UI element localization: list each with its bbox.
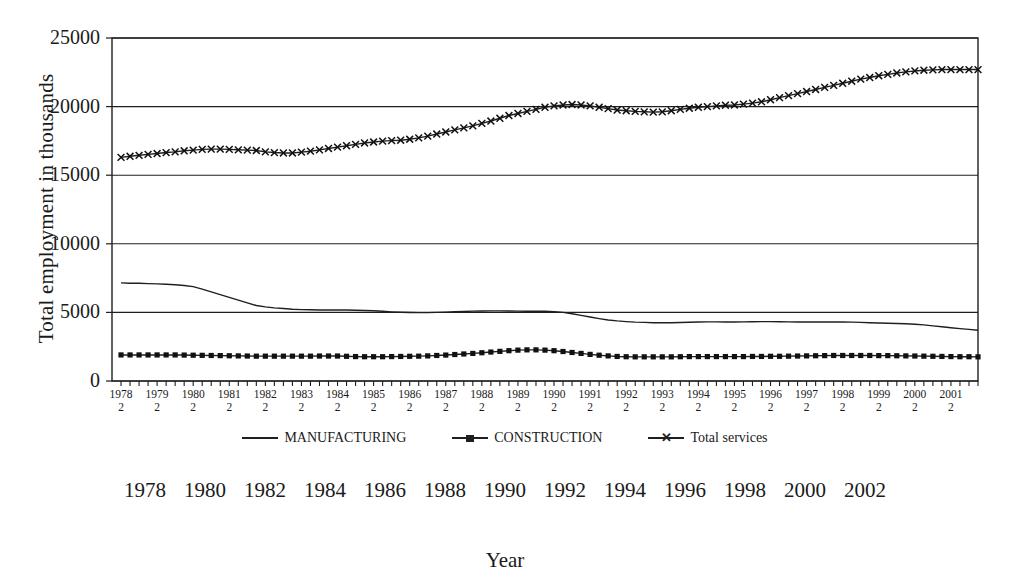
x-tick-quarter: 2: [318, 402, 358, 414]
secondary-year-axis: 1978198019821984198619881990199219941996…: [0, 478, 1010, 503]
x-tick-label: 19992: [859, 389, 899, 413]
secondary-year-label: 2002: [835, 478, 895, 503]
x-tick-quarter: 2: [823, 402, 863, 414]
legend-label-manufacturing: MANUFACTURING: [284, 430, 406, 446]
x-tick-label: 19932: [642, 389, 682, 413]
legend-label-construction: CONSTRUCTION: [494, 430, 602, 446]
x-tick-year: 1997: [787, 389, 827, 401]
secondary-year-label: 1988: [415, 478, 475, 503]
x-tick-year: 2001: [931, 389, 971, 401]
x-tick-year: 1978: [101, 389, 141, 401]
x-tick-quarter: 2: [354, 402, 394, 414]
x-tick-label: 19792: [137, 389, 177, 413]
x-tick-year: 1986: [390, 389, 430, 401]
x-tick-year: 1988: [462, 389, 502, 401]
x-tick-label: 19822: [245, 389, 285, 413]
y-tick-label: 5000: [20, 301, 100, 321]
x-tick-year: 1979: [137, 389, 177, 401]
y-tick-label: 20000: [20, 96, 100, 116]
x-tick-label: 20012: [931, 389, 971, 413]
legend-key-cross-icon: ✕: [648, 431, 684, 445]
x-tick-year: 1996: [751, 389, 791, 401]
x-tick-quarter: 2: [606, 402, 646, 414]
x-axis-title: Year: [0, 548, 1010, 573]
x-tick-label: 19902: [534, 389, 574, 413]
x-tick-quarter: 2: [714, 402, 754, 414]
x-tick-year: 1989: [498, 389, 538, 401]
x-tick-quarter: 2: [101, 402, 141, 414]
secondary-year-label: 1980: [175, 478, 235, 503]
x-tick-quarter: 2: [570, 402, 610, 414]
x-tick-year: 1991: [570, 389, 610, 401]
x-tick-quarter: 2: [534, 402, 574, 414]
secondary-year-label: 1994: [595, 478, 655, 503]
x-tick-label: 19842: [318, 389, 358, 413]
secondary-year-label: 1990: [475, 478, 535, 503]
employment-line-chart: Total employment in thousands MANUFACTUR…: [0, 0, 1010, 584]
x-tick-year: 1981: [209, 389, 249, 401]
x-tick-quarter: 2: [137, 402, 177, 414]
x-tick-label: 19882: [462, 389, 502, 413]
x-tick-label: 20002: [895, 389, 935, 413]
secondary-year-label: 1978: [115, 478, 175, 503]
legend-item-manufacturing[interactable]: MANUFACTURING: [242, 430, 406, 446]
x-tick-label: 19812: [209, 389, 249, 413]
x-tick-label: 19852: [354, 389, 394, 413]
x-tick-quarter: 2: [787, 402, 827, 414]
secondary-year-label: 1996: [655, 478, 715, 503]
x-tick-label: 19892: [498, 389, 538, 413]
y-tick-label: 25000: [20, 27, 100, 47]
x-tick-quarter: 2: [462, 402, 502, 414]
x-tick-year: 1980: [173, 389, 213, 401]
x-tick-year: 1987: [426, 389, 466, 401]
x-tick-year: 2000: [895, 389, 935, 401]
legend-key-square-icon: [452, 431, 488, 445]
x-tick-quarter: 2: [173, 402, 213, 414]
x-tick-label: 19922: [606, 389, 646, 413]
legend-label-total-services: Total services: [690, 430, 767, 446]
x-tick-quarter: 2: [390, 402, 430, 414]
x-tick-year: 1990: [534, 389, 574, 401]
x-tick-year: 1999: [859, 389, 899, 401]
x-tick-quarter: 2: [931, 402, 971, 414]
secondary-year-label: 1986: [355, 478, 415, 503]
x-tick-quarter: 2: [245, 402, 285, 414]
y-tick-label: 15000: [20, 164, 100, 184]
legend-item-total-services[interactable]: ✕ Total services: [648, 430, 767, 446]
legend-key-line-icon: [242, 431, 278, 445]
x-tick-quarter: 2: [281, 402, 321, 414]
x-tick-quarter: 2: [209, 402, 249, 414]
secondary-year-label: 2000: [775, 478, 835, 503]
x-tick-quarter: 2: [859, 402, 899, 414]
x-tick-label: 19972: [787, 389, 827, 413]
x-tick-label: 19982: [823, 389, 863, 413]
y-tick-label: 10000: [20, 233, 100, 253]
x-tick-label: 19862: [390, 389, 430, 413]
x-tick-label: 19832: [281, 389, 321, 413]
x-tick-label: 19872: [426, 389, 466, 413]
x-tick-year: 1985: [354, 389, 394, 401]
x-tick-quarter: 2: [678, 402, 718, 414]
x-tick-year: 1983: [281, 389, 321, 401]
x-tick-year: 1993: [642, 389, 682, 401]
x-tick-label: 19782: [101, 389, 141, 413]
x-tick-quarter: 2: [426, 402, 466, 414]
x-tick-label: 19962: [751, 389, 791, 413]
x-tick-year: 1995: [714, 389, 754, 401]
x-tick-year: 1992: [606, 389, 646, 401]
x-tick-year: 1994: [678, 389, 718, 401]
y-tick-label: 0: [20, 370, 100, 390]
x-tick-quarter: 2: [642, 402, 682, 414]
x-tick-year: 1984: [318, 389, 358, 401]
x-tick-label: 19912: [570, 389, 610, 413]
x-tick-quarter: 2: [751, 402, 791, 414]
secondary-year-label: 1982: [235, 478, 295, 503]
secondary-year-label: 1992: [535, 478, 595, 503]
x-tick-quarter: 2: [895, 402, 935, 414]
x-tick-quarter: 2: [498, 402, 538, 414]
x-tick-year: 1998: [823, 389, 863, 401]
legend-item-construction[interactable]: CONSTRUCTION: [452, 430, 602, 446]
chart-legend: MANUFACTURING CONSTRUCTION ✕ Total servi…: [0, 430, 1010, 446]
x-tick-year: 1982: [245, 389, 285, 401]
x-tick-label: 19942: [678, 389, 718, 413]
